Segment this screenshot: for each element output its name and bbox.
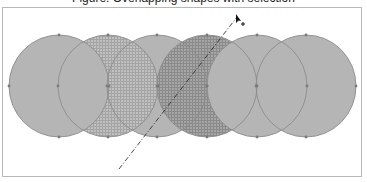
shape-fills bbox=[9, 35, 356, 137]
drawing-canvas[interactable] bbox=[0, 0, 367, 182]
cursor-arrow-icon bbox=[236, 14, 245, 26]
